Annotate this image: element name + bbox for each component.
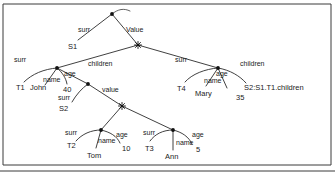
edge-label-t1-age: age — [64, 70, 76, 78]
graph-diagram: surr Value S1 surr name age children T1 — [0, 0, 335, 175]
node-star-2[interactable] — [119, 103, 126, 110]
edge-label-s2-value: value — [102, 86, 119, 93]
node-t3[interactable] — [171, 128, 175, 132]
edge-label-t2-surr: surr — [65, 129, 78, 136]
edge-label-t3-surr: surr — [143, 129, 156, 136]
node-star-1[interactable] — [135, 42, 142, 49]
leaf-t3: T3 — [145, 144, 154, 153]
node-s2[interactable] — [86, 82, 90, 86]
root-incoming-hook — [112, 9, 130, 14]
edge-label-t1-children: children — [88, 60, 113, 67]
edge-label-t4-surr: surr — [175, 56, 188, 63]
edge-label-t1-name: name — [43, 76, 61, 83]
leaf-ann: Ann — [165, 152, 178, 161]
edge-label-t3-name: name — [176, 139, 194, 146]
leaf-mary: Mary — [195, 89, 212, 98]
node-root[interactable] — [110, 12, 114, 16]
edge-label-t4-children: children — [240, 60, 265, 67]
edge-label-t4-name: name — [204, 77, 222, 84]
leaf-age-40: 40 — [63, 85, 71, 94]
leaf-s1: S1 — [68, 42, 77, 51]
edge-star2-left — [101, 106, 122, 130]
node-t1[interactable] — [55, 66, 59, 70]
edge-label-t2-name: name — [98, 137, 116, 144]
edge-star2-right — [122, 106, 173, 130]
leaf-age-35: 35 — [236, 93, 244, 102]
figure-canvas: surr Value S1 surr name age children T1 — [0, 0, 335, 175]
leaf-s2-children-ref: S2:S1.T1.children — [244, 83, 304, 92]
edge-label-t4-age: age — [216, 70, 228, 78]
leaf-tom: Tom — [87, 151, 101, 160]
edge-label-t2-age: age — [116, 131, 128, 139]
leaf-age-10: 10 — [122, 144, 130, 153]
star-node-2-group — [101, 103, 173, 131]
leaf-t1: T1 — [16, 83, 25, 92]
leaf-age-5: 5 — [196, 145, 200, 154]
leaf-t2: T2 — [67, 141, 76, 150]
edge-label-t3-age: age — [192, 131, 204, 139]
edge-label-s2-surr: surr — [58, 94, 71, 101]
node-t2[interactable] — [99, 128, 103, 132]
edge-label-root-surr: surr — [78, 26, 91, 33]
edge-s2-surr — [72, 84, 88, 102]
leaf-s2: S2 — [59, 104, 68, 113]
leaf-john: John — [30, 83, 46, 92]
edge-label-root-value: Value — [126, 26, 143, 33]
star-node-1-group — [57, 42, 218, 69]
leaf-t4: T4 — [177, 84, 186, 93]
edge-label-t1-surr: surr — [14, 56, 27, 63]
